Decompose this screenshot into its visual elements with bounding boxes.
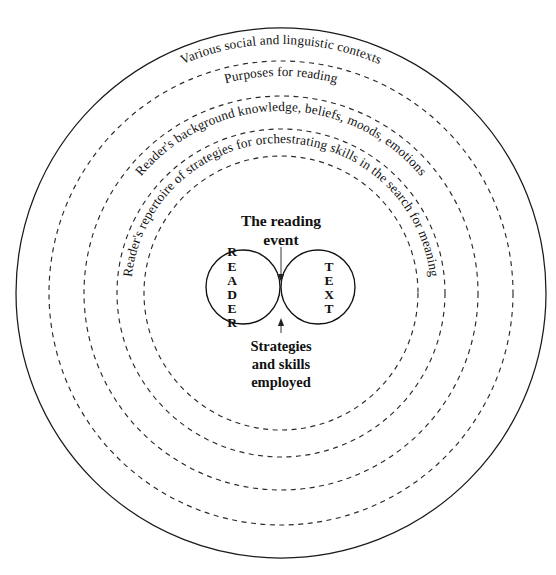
center-caption-line-3: employed	[251, 374, 311, 390]
venn-circle-reader	[206, 250, 280, 324]
venn-label-text: TEXT	[324, 259, 334, 317]
bottom-arrow-head	[278, 318, 284, 326]
center-caption-line-1: Strategies	[250, 338, 312, 354]
reader-letter: A	[227, 273, 237, 288]
center-title-line-1: The reading	[241, 212, 321, 229]
ring-label-contexts: Various social and linguistic contexts	[178, 32, 384, 67]
text-letter: T	[324, 301, 333, 316]
text-letter: X	[324, 287, 334, 302]
venn-circle-text	[281, 250, 355, 324]
center-caption-line-2: and skills	[252, 356, 311, 372]
reading-model-svg: Various social and linguistic contexts P…	[0, 0, 556, 575]
reader-letter: R	[227, 315, 237, 330]
ring-label-purposes: Purposes for reading	[223, 64, 340, 86]
reader-letter: E	[227, 259, 236, 274]
venn-label-reader: READER	[227, 244, 237, 330]
ring-label-contexts-path: Various social and linguistic contexts	[178, 32, 384, 67]
text-letter: T	[324, 259, 333, 274]
reading-model-diagram: Various social and linguistic contexts P…	[0, 0, 556, 575]
center-caption-group: Strategies and skills employed	[250, 338, 312, 390]
reader-letter: E	[227, 301, 236, 316]
center-title-line-2: event	[263, 231, 299, 248]
reader-letter: R	[227, 244, 237, 259]
ring-label-purposes-path: Purposes for reading	[223, 64, 340, 86]
reader-letter: D	[227, 287, 237, 302]
text-letter: E	[324, 273, 333, 288]
center-title-group: The reading event	[241, 212, 321, 248]
